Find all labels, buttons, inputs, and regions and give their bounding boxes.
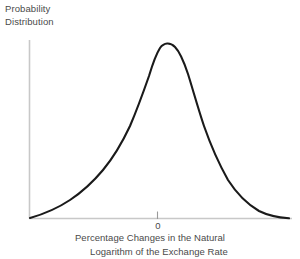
y-axis-label: Probability Distribution (5, 3, 54, 28)
y-axis-label-line-1: Probability (5, 3, 54, 16)
x-axis-tick-label-zero: 0 (151, 220, 165, 231)
x-axis-caption-line-1: Percentage Changes in the Natural (0, 231, 300, 245)
chart-plot-area (0, 0, 300, 259)
probability-density-curve (30, 44, 289, 219)
probability-distribution-figure: Probability Distribution 0 Percentage Ch… (0, 0, 300, 259)
y-axis-label-line-2: Distribution (5, 16, 54, 29)
x-axis-caption: Percentage Changes in the Natural Logari… (0, 231, 300, 258)
x-axis-caption-line-2: Logarithm of the Exchange Rate (0, 245, 300, 259)
axes-group (29, 40, 292, 219)
